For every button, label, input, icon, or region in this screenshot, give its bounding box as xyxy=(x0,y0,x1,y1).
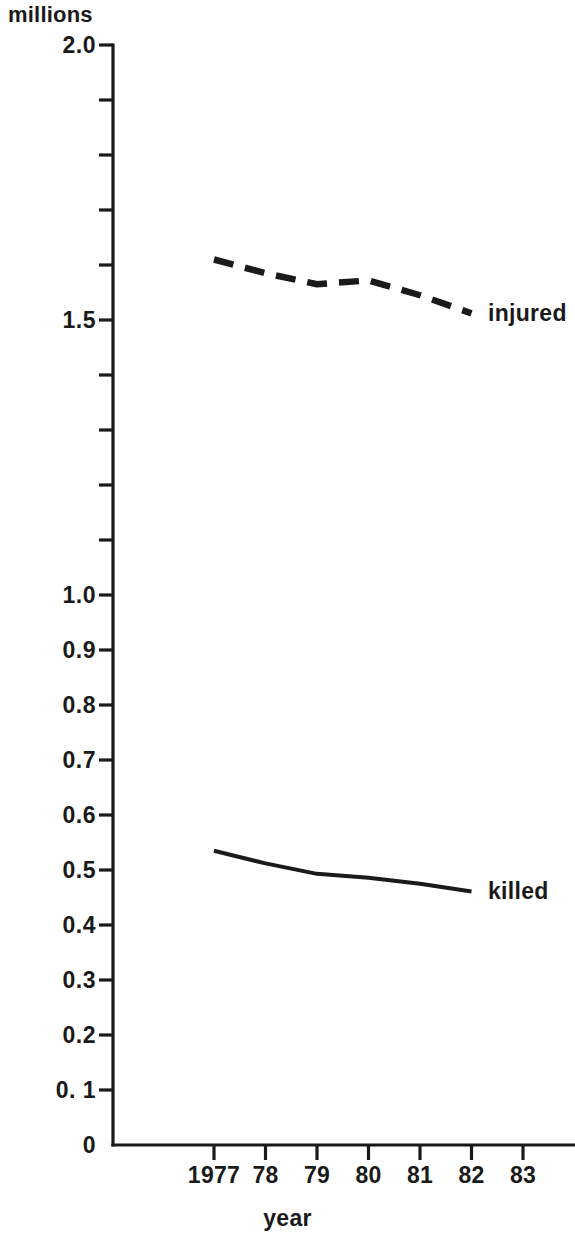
x-axis-tick-label: 83 xyxy=(510,1162,536,1189)
plot-canvas xyxy=(0,0,575,1246)
y-axis-ticks xyxy=(99,45,113,1090)
y-axis-tick-label-text: 0.5 xyxy=(0,857,96,884)
y-axis-tick-label-text: 1.5 xyxy=(0,307,96,334)
y-axis-tick-label-text: 1.0 xyxy=(0,582,96,609)
series-label-injured: injured xyxy=(488,300,567,327)
axis-lines xyxy=(113,45,575,1145)
series-label-killed: killed xyxy=(488,878,549,905)
y-axis-tick-label-text: 0.4 xyxy=(0,912,96,939)
x-axis-ticks xyxy=(214,1145,523,1160)
y-axis-tick-label-text: 0 xyxy=(0,1132,96,1159)
y-axis-tick-label-text: 0.6 xyxy=(0,802,96,829)
y-axis-tick-label-text: 2.0 xyxy=(0,32,96,59)
x-axis-title: year xyxy=(0,1205,575,1232)
y-axis-tick-label-text: 0.2 xyxy=(0,1022,96,1049)
y-axis-tick-label-text: 0.8 xyxy=(0,692,96,719)
series-paths xyxy=(214,260,472,892)
x-axis-tick-label: 82 xyxy=(458,1162,484,1189)
y-axis-tick-label-text: 0.7 xyxy=(0,747,96,774)
series-line-injured xyxy=(214,260,472,314)
x-axis-tick-label: 78 xyxy=(252,1162,278,1189)
series-line-killed xyxy=(214,851,472,892)
chart-figure: millions 2.01.51.00.90.80.70.60.50.40.30… xyxy=(0,0,575,1246)
x-axis-tick-label: 1977 xyxy=(188,1162,240,1189)
x-axis-tick-label: 80 xyxy=(355,1162,381,1189)
x-axis-tick-label: 79 xyxy=(304,1162,330,1189)
y-axis-tick-label-text: 0. 1 xyxy=(0,1077,96,1104)
y-axis-tick-label-text: 0.9 xyxy=(0,637,96,664)
x-axis-tick-label: 81 xyxy=(407,1162,433,1189)
y-axis-tick-label-text: 0.3 xyxy=(0,967,96,994)
